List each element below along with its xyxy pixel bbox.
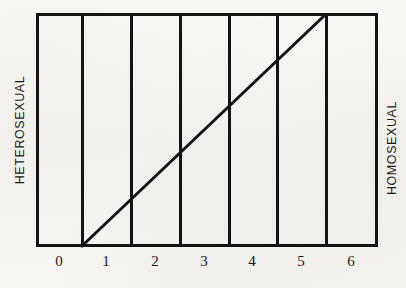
column-divider-2-3 <box>179 16 182 244</box>
tick-label-2: 2 <box>143 252 167 270</box>
column-divider-4-5 <box>276 16 279 244</box>
column-divider-5-6 <box>325 16 328 244</box>
tick-label-0: 0 <box>47 252 71 270</box>
tick-label-5: 5 <box>289 252 313 270</box>
tick-label-1: 1 <box>94 252 118 270</box>
axis-label-homosexual: HOMOSEXUAL <box>385 101 399 195</box>
figure-canvas: 0 1 2 3 4 5 6 HETEROSEXUAL HOMOSEXUAL <box>0 0 406 288</box>
tick-label-6: 6 <box>339 252 363 270</box>
tick-label-4: 4 <box>240 252 264 270</box>
column-divider-3-4 <box>228 16 231 244</box>
scale-grid-frame <box>36 13 378 247</box>
axis-label-heterosexual: HETEROSEXUAL <box>13 76 27 185</box>
column-divider-1-2 <box>130 16 133 244</box>
column-divider-0-1 <box>81 16 84 244</box>
tick-label-3: 3 <box>192 252 216 270</box>
